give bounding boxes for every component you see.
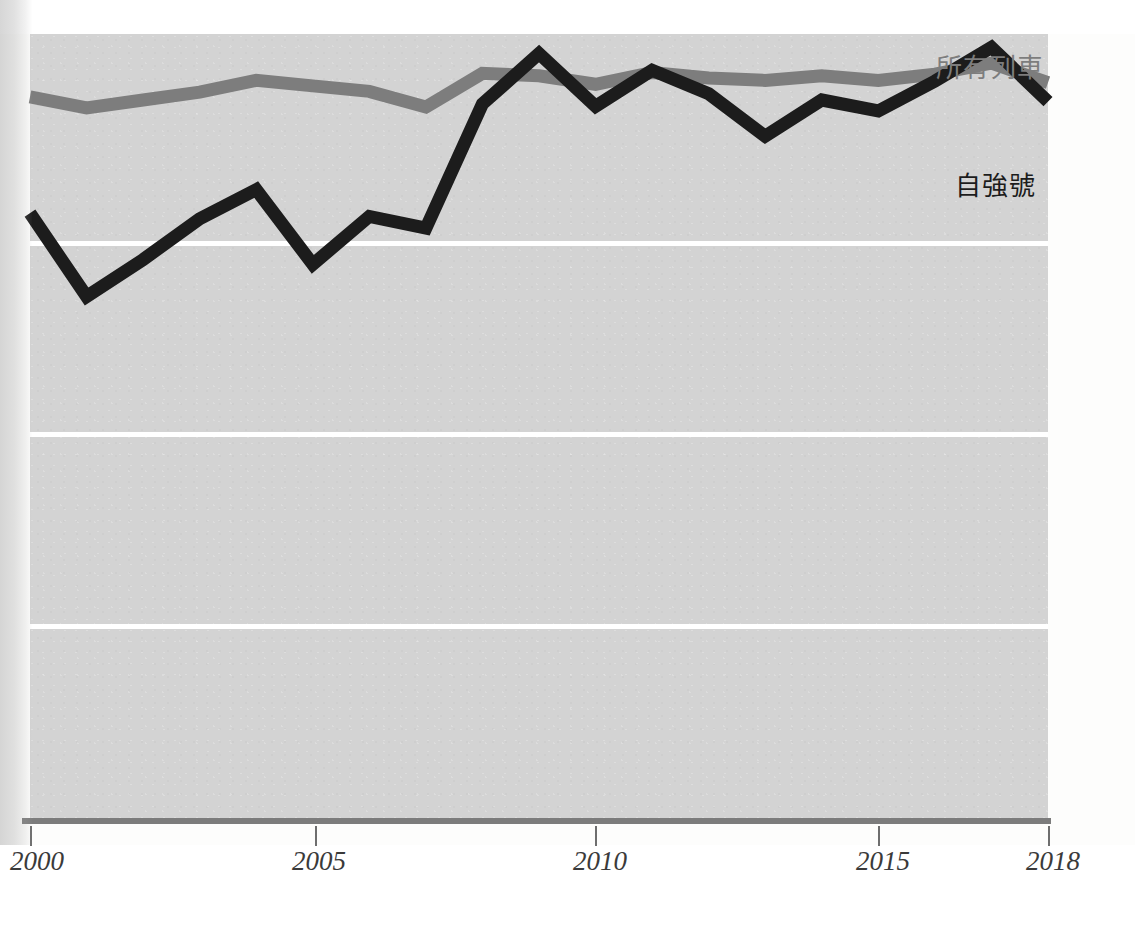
x-tick-label-2015: 2015 (856, 846, 910, 877)
x-tick-2005 (315, 826, 317, 846)
page-top-margin (0, 0, 1135, 34)
x-tick-label-2005: 2005 (292, 846, 346, 877)
x-tick-2000 (30, 826, 32, 846)
legend-label-all-trains: 所有列車 (936, 47, 1044, 84)
x-tick-label-2010: 2010 (573, 846, 627, 877)
x-tick-2010 (595, 826, 597, 846)
chart-figure: 2000 2005 2010 2015 2018 所有列車 自強號 (0, 0, 1135, 931)
x-axis-line (22, 818, 1051, 824)
x-tick-label-2018: 2018 (1026, 846, 1080, 877)
x-tick-2015 (878, 826, 880, 846)
legend-label-tzechiang: 自強號 (955, 165, 1036, 202)
x-tick-label-2000: 2000 (10, 846, 64, 877)
x-tick-2018 (1048, 826, 1050, 846)
series-layer (0, 0, 1135, 931)
